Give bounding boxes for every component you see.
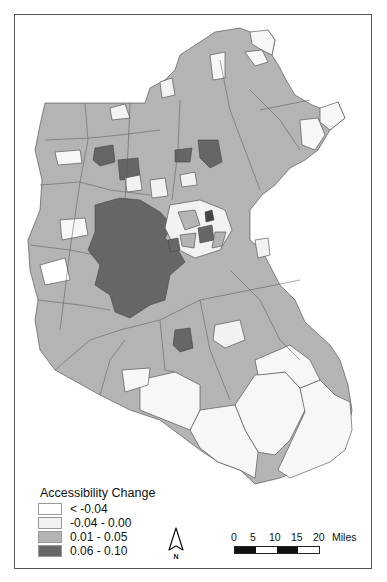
scale-tick: 5	[250, 531, 256, 543]
scale-segment	[256, 547, 277, 553]
scale-tick: 0	[231, 531, 237, 543]
north-label: N	[173, 553, 178, 560]
scale-bar-segments	[234, 546, 320, 554]
scale-tick: 20	[313, 531, 325, 543]
scale-segment	[298, 547, 319, 553]
north-arrow: N	[166, 526, 186, 562]
legend-label: 0.06 - 0.10	[70, 544, 127, 558]
legend-item: 0.01 - 0.05	[38, 530, 155, 544]
map-region-dark-south	[173, 328, 193, 352]
scale-tick: 10	[269, 531, 281, 543]
legend-title: Accessibility Change	[40, 486, 155, 500]
legend-label: -0.04 - 0.00	[70, 516, 131, 530]
legend-item: -0.04 - 0.00	[38, 516, 155, 530]
map-region-north-white-3	[210, 52, 225, 80]
legend-swatch	[38, 517, 62, 529]
scale-segment	[277, 547, 298, 553]
north-arrow-icon: N	[166, 526, 186, 562]
scale-segment	[235, 547, 256, 553]
map-region-dark-west-1	[93, 145, 115, 166]
legend: Accessibility Change < -0.04 -0.04 - 0.0…	[26, 486, 155, 558]
legend-item: 0.06 - 0.10	[38, 544, 155, 558]
legend-swatch	[38, 503, 62, 515]
scale-tick: 15	[291, 531, 303, 543]
map-region-south-white-4	[140, 372, 200, 430]
map-region-nw-white	[55, 150, 82, 165]
legend-label: < -0.04	[70, 502, 108, 516]
legend-swatch	[38, 531, 62, 543]
legend-swatch	[38, 545, 62, 557]
scale-unit: Miles	[332, 531, 357, 543]
legend-item: < -0.04	[38, 502, 155, 516]
legend-label: 0.01 - 0.05	[70, 530, 127, 544]
